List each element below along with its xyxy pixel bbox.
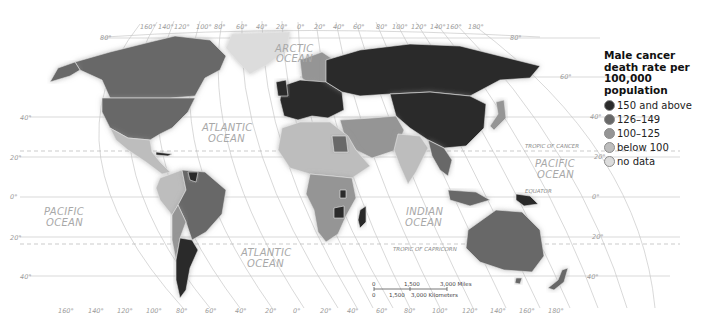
region-brazil	[178, 170, 226, 240]
svg-text:0: 0	[372, 292, 376, 298]
svg-text:120°: 120°	[117, 307, 133, 315]
svg-text:60°: 60°	[205, 307, 217, 315]
region-australia	[466, 210, 544, 272]
svg-text:40°: 40°	[235, 307, 247, 315]
region-new-zealand	[548, 268, 568, 290]
svg-text:20°: 20°	[314, 23, 326, 31]
legend-swatch-dark	[604, 114, 615, 125]
svg-text:140°: 140°	[88, 307, 104, 315]
region-japan	[490, 100, 506, 130]
svg-text:40°: 40°	[20, 114, 32, 122]
svg-text:OCEAN: OCEAN	[208, 133, 245, 144]
svg-text:TROPIC OF CANCER: TROPIC OF CANCER	[525, 143, 579, 149]
legend-item-below-100: below 100	[604, 140, 701, 154]
scale-bar: 0 1,500 3,000 Miles 0 1,500 3,000 Kilome…	[372, 281, 472, 298]
region-canada	[75, 36, 226, 98]
svg-text:40°: 40°	[256, 23, 268, 31]
top-longitude-labels: 160° 140° 120° 100° 80° 60° 40° 20° 0° 2…	[140, 23, 484, 31]
svg-text:INDIAN: INDIAN	[406, 206, 443, 217]
region-png	[516, 194, 538, 206]
svg-text:OCEAN: OCEAN	[247, 258, 284, 269]
svg-text:0°: 0°	[293, 307, 300, 315]
svg-text:60°: 60°	[560, 73, 572, 81]
svg-text:140°: 140°	[490, 307, 506, 315]
svg-text:100°: 100°	[392, 23, 408, 31]
region-india	[394, 134, 428, 184]
svg-text:80°: 80°	[214, 23, 226, 31]
legend-swatch-light	[604, 142, 615, 153]
legend-item-126-149: 126–149	[604, 112, 701, 126]
world-map: 160° 140° 120° 100° 80° 60° 40° 20° 0° 2…	[0, 0, 701, 323]
svg-text:20°: 20°	[10, 234, 22, 242]
svg-text:TROPIC OF CAPRICORN: TROPIC OF CAPRICORN	[393, 246, 457, 252]
svg-text:PACIFIC: PACIFIC	[44, 206, 84, 217]
svg-text:0°: 0°	[10, 193, 17, 201]
svg-text:180°: 180°	[548, 307, 564, 315]
svg-text:80°: 80°	[376, 23, 388, 31]
svg-text:140°: 140°	[158, 23, 174, 31]
bottom-longitude-labels: 160° 140° 120° 100° 80° 60° 40° 20° 0° 2…	[58, 307, 564, 315]
svg-text:80°: 80°	[176, 307, 188, 315]
svg-text:40°: 40°	[590, 113, 602, 121]
region-russia	[326, 44, 540, 96]
map-legend: Male cancer death rate per 100,000 popul…	[604, 50, 701, 168]
svg-text:120°: 120°	[411, 23, 427, 31]
svg-text:40°: 40°	[20, 273, 32, 281]
svg-text:0: 0	[372, 281, 376, 287]
svg-text:OCEAN: OCEAN	[276, 53, 313, 64]
svg-text:20°: 20°	[276, 23, 288, 31]
svg-text:20°: 20°	[592, 233, 604, 241]
legend-swatch-darkest	[604, 100, 615, 111]
svg-text:120°: 120°	[174, 23, 190, 31]
svg-text:PACIFIC: PACIFIC	[535, 158, 575, 169]
svg-text:20°: 20°	[320, 307, 332, 315]
svg-text:160°: 160°	[140, 23, 156, 31]
svg-text:100°: 100°	[432, 307, 448, 315]
legend-swatch-medium	[604, 128, 615, 139]
region-alaska	[50, 62, 80, 82]
region-zimbabwe	[334, 206, 344, 218]
svg-text:40°: 40°	[347, 307, 359, 315]
svg-text:160°: 160°	[519, 307, 535, 315]
svg-text:1,500: 1,500	[404, 281, 420, 287]
svg-text:20°: 20°	[265, 307, 277, 315]
region-uganda	[340, 190, 346, 198]
legend-item-150-above: 150 and above	[604, 98, 701, 112]
region-tasmania	[515, 278, 522, 284]
svg-text:60°: 60°	[376, 307, 388, 315]
svg-text:100°: 100°	[196, 23, 212, 31]
svg-text:160°: 160°	[58, 307, 74, 315]
svg-text:140°: 140°	[430, 23, 446, 31]
svg-text:60°: 60°	[236, 23, 248, 31]
svg-text:40°: 40°	[587, 273, 599, 281]
svg-text:180°: 180°	[468, 23, 484, 31]
region-central-africa	[306, 174, 356, 242]
landmasses	[50, 32, 568, 298]
svg-text:ATLANTIC: ATLANTIC	[201, 122, 253, 133]
svg-text:20°: 20°	[10, 154, 22, 162]
svg-text:3,000 Miles: 3,000 Miles	[440, 281, 472, 287]
region-uk	[276, 80, 288, 96]
svg-text:OCEAN: OCEAN	[46, 217, 83, 228]
legend-title: Male cancer death rate per 100,000 popul…	[604, 50, 701, 96]
svg-text:EQUATOR: EQUATOR	[525, 188, 552, 194]
svg-text:160°: 160°	[446, 23, 462, 31]
region-madagascar	[358, 206, 366, 228]
legend-item-no-data: no data	[604, 154, 701, 168]
svg-text:60°: 60°	[353, 23, 365, 31]
svg-text:80°: 80°	[404, 307, 416, 315]
region-egypt	[332, 136, 348, 152]
svg-text:0°: 0°	[297, 23, 304, 31]
region-cuba	[156, 152, 172, 156]
legend-item-100-125: 100–125	[604, 126, 701, 140]
svg-text:ATLANTIC: ATLANTIC	[240, 247, 292, 258]
svg-text:80°: 80°	[510, 34, 522, 42]
legend-swatch-lightest	[604, 156, 615, 167]
svg-text:40°: 40°	[333, 23, 345, 31]
svg-text:0°: 0°	[592, 193, 599, 201]
svg-text:1,500: 1,500	[389, 292, 405, 298]
svg-text:OCEAN: OCEAN	[537, 169, 574, 180]
svg-text:OCEAN: OCEAN	[405, 217, 442, 228]
svg-text:120°: 120°	[462, 307, 478, 315]
svg-text:80°: 80°	[100, 34, 112, 42]
